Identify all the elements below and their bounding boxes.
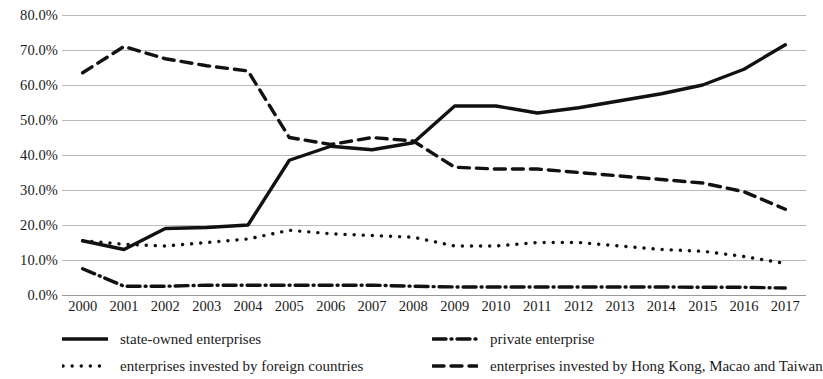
x-axis-tick-label: 2004 — [234, 298, 263, 314]
legend-swatch-icon — [432, 359, 478, 373]
series-lines — [62, 15, 806, 295]
x-axis-tick-label: 2003 — [192, 298, 221, 314]
y-axis-tick-label: 10.0% — [0, 253, 58, 268]
x-axis-tick-label: 2007 — [358, 298, 387, 314]
x-axis-tick-label: 2000 — [68, 298, 97, 314]
x-axis-tick-label: 2010 — [482, 298, 511, 314]
series-line — [83, 45, 786, 250]
y-axis-tick-label: 30.0% — [0, 183, 58, 198]
y-axis-tick-label: 70.0% — [0, 43, 58, 58]
legend-item[interactable]: private enterprise — [432, 328, 595, 350]
legend-item[interactable]: state-owned enterprises — [62, 328, 261, 350]
y-axis-tick-label: 60.0% — [0, 78, 58, 93]
y-axis-tick-label: 0.0% — [0, 288, 58, 303]
series-line — [83, 47, 786, 210]
x-axis-tick-label: 2014 — [647, 298, 676, 314]
x-axis-tick-label: 2016 — [730, 298, 759, 314]
x-axis-tick-label: 2001 — [110, 298, 139, 314]
legend-label: enterprises invested by Hong Kong, Macao… — [490, 358, 823, 374]
x-axis-tick-label: 2017 — [771, 298, 800, 314]
x-axis-tick-label: 2012 — [564, 298, 593, 314]
plot-area — [62, 15, 806, 295]
legend-label: private enterprise — [490, 331, 595, 347]
x-axis-tick-label: 2015 — [688, 298, 717, 314]
y-axis-tick-label: 20.0% — [0, 218, 58, 233]
x-axis-tick-label: 2005 — [275, 298, 304, 314]
x-axis-tick-label: 2011 — [523, 298, 551, 314]
legend-item[interactable]: enterprises invested by foreign countrie… — [62, 355, 363, 377]
series-line — [83, 269, 786, 288]
legend-label: enterprises invested by foreign countrie… — [120, 358, 363, 374]
x-axis: 2000200120022003200420052006200720082009… — [62, 298, 806, 320]
x-axis-tick-label: 2009 — [440, 298, 469, 314]
legend-label: state-owned enterprises — [120, 331, 261, 347]
gridline — [62, 295, 806, 296]
y-axis-tick-label: 80.0% — [0, 8, 58, 23]
legend-swatch-icon — [62, 332, 108, 346]
y-axis-tick-label: 50.0% — [0, 113, 58, 128]
x-axis-tick-label: 2006 — [316, 298, 345, 314]
legend-swatch-icon — [62, 359, 108, 373]
x-axis-tick-label: 2013 — [606, 298, 635, 314]
x-axis-tick-label: 2008 — [399, 298, 428, 314]
y-axis-tick-label: 40.0% — [0, 148, 58, 163]
x-axis-tick-label: 2002 — [151, 298, 180, 314]
y-axis: 0.0%10.0%20.0%30.0%40.0%50.0%60.0%70.0%8… — [0, 0, 58, 379]
chart-legend: state-owned enterprisesprivate enterpris… — [0, 326, 816, 379]
series-line — [83, 230, 786, 263]
legend-swatch-icon — [432, 332, 478, 346]
legend-item[interactable]: enterprises invested by Hong Kong, Macao… — [432, 355, 823, 377]
